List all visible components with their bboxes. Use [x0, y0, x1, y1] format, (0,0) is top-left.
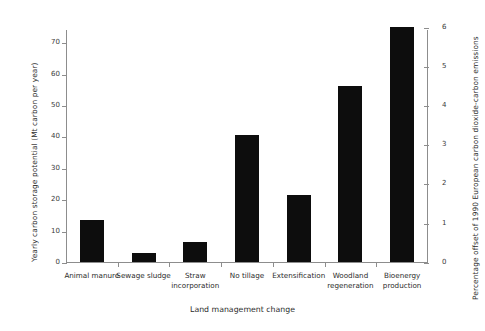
bar	[235, 135, 259, 262]
y-tick-left	[62, 43, 67, 44]
bar	[183, 242, 207, 262]
y-tick-label-left: 50	[40, 101, 60, 109]
y-tick-label-right: 3	[442, 140, 446, 148]
axis-spine-bottom	[66, 262, 428, 263]
y-tick-label-left: 20	[40, 195, 60, 203]
y-tick-label-right: 6	[442, 23, 446, 31]
y-tick-left	[62, 200, 67, 201]
bar	[287, 195, 311, 262]
bar	[338, 86, 362, 262]
x-category-label: Bioenergy production	[367, 271, 437, 290]
x-tick	[169, 262, 170, 267]
y-tick-label-left: 70	[40, 38, 60, 46]
y-tick-right	[424, 184, 429, 185]
x-tick	[325, 262, 326, 267]
y-tick-right	[424, 106, 429, 107]
x-tick	[221, 262, 222, 267]
y-tick-label-left: 0	[40, 258, 60, 266]
x-tick	[376, 262, 377, 267]
y-tick-label-right: 4	[442, 101, 446, 109]
axis-spine-left	[66, 30, 67, 263]
y-tick-right	[424, 263, 429, 264]
bar	[80, 220, 104, 262]
x-tick	[118, 262, 119, 267]
y-tick-left	[62, 263, 67, 264]
y-tick-label-left: 60	[40, 70, 60, 78]
y-tick-right	[424, 28, 429, 29]
bar	[390, 27, 414, 263]
x-axis-title: Land management change	[0, 305, 485, 314]
y-tick-label-right: 0	[442, 258, 446, 266]
y-tick-right	[424, 224, 429, 225]
plot-area: 010203040506070 0123456 Animal manureSew…	[66, 30, 428, 263]
x-tick	[273, 262, 274, 267]
y-tick-right	[424, 67, 429, 68]
y-tick-left	[62, 106, 67, 107]
bar	[132, 253, 156, 262]
y-tick-label-right: 2	[442, 179, 446, 187]
axis-spine-right	[427, 30, 428, 263]
y-axis-title-right: Percentage offset of 1990 European carbo…	[471, 36, 480, 300]
y-tick-label-left: 10	[40, 227, 60, 235]
bar-chart-figure: Yearly carbon storage potential (Mt carb…	[0, 0, 485, 331]
y-tick-left	[62, 75, 67, 76]
y-tick-left	[62, 137, 67, 138]
y-tick-label-right: 5	[442, 62, 446, 70]
y-axis-title-left: Yearly carbon storage potential (Mt carb…	[30, 62, 39, 262]
y-tick-right	[424, 145, 429, 146]
y-tick-label-right: 1	[442, 219, 446, 227]
y-tick-label-left: 40	[40, 132, 60, 140]
y-tick-label-left: 30	[40, 164, 60, 172]
y-tick-left	[62, 232, 67, 233]
y-tick-left	[62, 169, 67, 170]
